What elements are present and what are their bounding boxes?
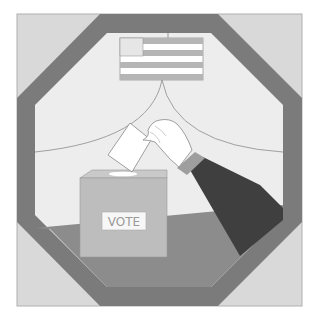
vote-illustration: VOTE [0,0,314,327]
vote-label-text: VOTE [108,215,140,229]
american-flag-icon [120,38,203,80]
vote-label: VOTE [102,212,146,230]
